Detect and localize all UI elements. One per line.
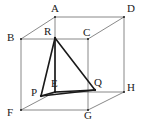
vertex-label-a: A: [51, 3, 59, 14]
vertex-label-f: F: [7, 107, 13, 118]
vertex-dot-f: [20, 109, 22, 111]
vertex-label-d: D: [127, 3, 135, 14]
vertex-dot-a: [54, 16, 56, 18]
vertex-dot-q: [94, 89, 96, 91]
edge-G-H: [88, 92, 124, 110]
vertex-dot-e: [54, 91, 56, 93]
vertex-label-p: P: [31, 87, 37, 98]
vertex-label-b: B: [7, 32, 14, 43]
vertex-dot-c: [87, 38, 89, 40]
vertex-dot-p: [40, 95, 42, 97]
vertex-label-g: G: [84, 110, 92, 121]
vertex-label-q: Q: [94, 77, 102, 88]
geometry-figure: ABCDEFGHPQR: [0, 0, 141, 125]
vertex-dot-d: [123, 16, 125, 18]
edge-C-D: [88, 17, 124, 39]
edge-R-Q: [55, 38, 95, 90]
vertex-label-h: H: [127, 82, 135, 93]
inner-edges-group: [41, 38, 95, 96]
vertex-label-e: E: [51, 78, 58, 89]
vertex-dot-r: [54, 37, 56, 39]
vertex-dot-b: [20, 38, 22, 40]
vertex-label-c: C: [83, 27, 90, 38]
vertex-label-r: R: [44, 26, 51, 37]
vertex-dot-h: [123, 91, 125, 93]
figure-canvas: [0, 0, 141, 125]
